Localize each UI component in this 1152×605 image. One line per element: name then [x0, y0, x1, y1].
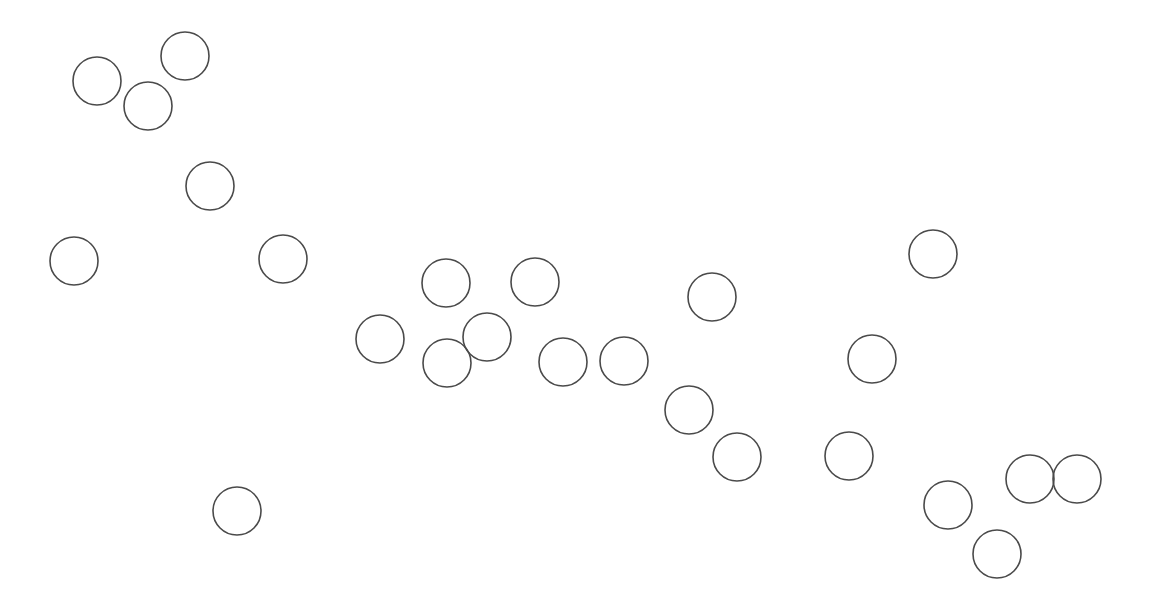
- circle-canvas: [0, 0, 1152, 605]
- circle-node-11: [463, 313, 511, 361]
- circle-node-13: [539, 338, 587, 386]
- circle-node-7: [213, 487, 261, 535]
- circle-node-5: [50, 237, 98, 285]
- circle-node-18: [665, 386, 713, 434]
- circle-node-22: [1006, 455, 1054, 503]
- circle-node-8: [356, 315, 404, 363]
- circle-node-15: [688, 273, 736, 321]
- circle-node-3: [161, 32, 209, 80]
- circle-node-23: [1053, 455, 1101, 503]
- circle-node-1: [73, 57, 121, 105]
- circle-node-2: [124, 82, 172, 130]
- circle-node-6: [259, 235, 307, 283]
- circle-node-12: [423, 339, 471, 387]
- circle-node-10: [511, 258, 559, 306]
- circle-node-20: [825, 432, 873, 480]
- circle-node-14: [600, 337, 648, 385]
- circle-node-4: [186, 162, 234, 210]
- circle-node-19: [713, 433, 761, 481]
- circle-node-24: [973, 530, 1021, 578]
- circle-node-9: [422, 259, 470, 307]
- circle-node-16: [909, 230, 957, 278]
- circle-node-21: [924, 481, 972, 529]
- circle-node-17: [848, 335, 896, 383]
